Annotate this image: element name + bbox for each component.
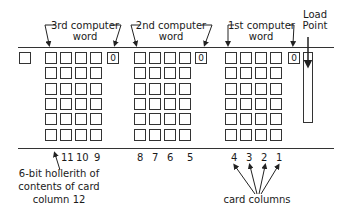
first-word-left-arrow <box>228 25 234 44</box>
card-col-4-arrow <box>235 166 255 194</box>
third-word-right-arrow <box>111 25 121 44</box>
card-col-1-arrow <box>261 166 278 194</box>
arrows-overlay <box>0 0 351 222</box>
hollerith-arrow <box>55 154 60 170</box>
second-word-left-arrow <box>131 25 140 44</box>
first-word-right-arrow <box>289 25 294 44</box>
second-word-right-arrow <box>202 25 212 44</box>
third-word-left-arrow <box>45 25 56 44</box>
card-col-3-arrow <box>250 166 257 194</box>
